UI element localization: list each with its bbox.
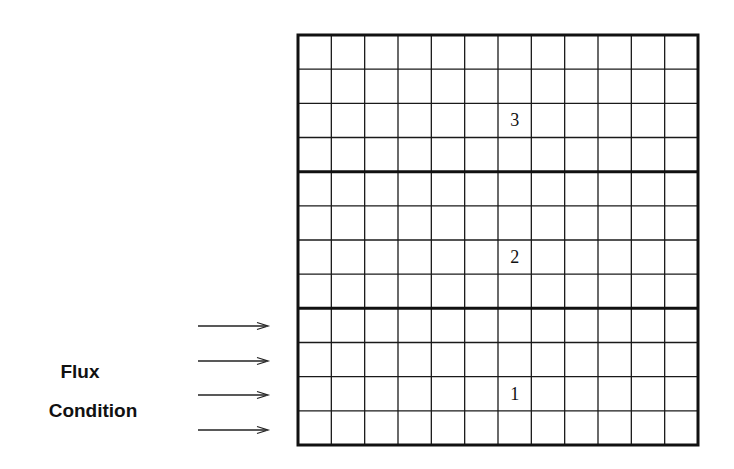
flux-label-line2: Condition — [49, 400, 138, 421]
flux-label-line1: Flux — [60, 361, 99, 382]
region-label-3: 3 — [510, 110, 519, 130]
arrow-right-icon — [198, 392, 268, 399]
region-label-1: 1 — [510, 384, 519, 404]
flux-grid-diagram: 3 2 1 Flux Condition — [0, 0, 734, 469]
region-labels: 3 2 1 — [510, 110, 519, 403]
arrow-right-icon — [198, 427, 268, 434]
arrow-right-icon — [198, 323, 268, 330]
arrow-right-icon — [198, 358, 268, 365]
grid-lines — [298, 35, 698, 445]
region-label-2: 2 — [510, 247, 519, 267]
flux-arrows — [198, 323, 268, 434]
